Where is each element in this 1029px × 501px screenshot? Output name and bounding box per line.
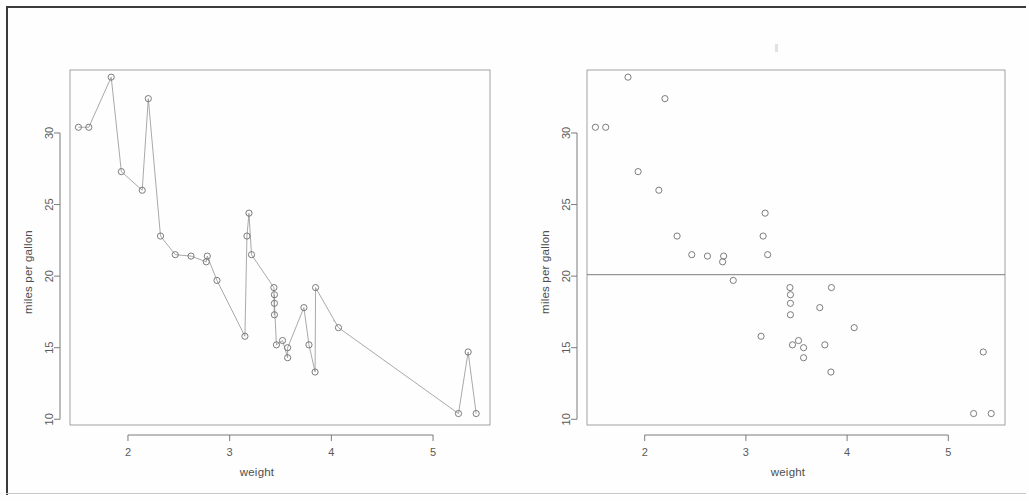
y-axis-tick-label: 15 xyxy=(43,342,55,354)
data-point xyxy=(603,124,609,130)
data-point xyxy=(828,369,834,375)
y-axis-tick-label: 10 xyxy=(43,413,55,425)
data-point xyxy=(730,277,736,283)
data-point xyxy=(971,410,977,416)
x-axis-tick-label: 3 xyxy=(227,446,233,458)
plot-box xyxy=(70,70,490,425)
data-point xyxy=(721,253,727,259)
scatter-plot-with-mean-line: 23451015202530 xyxy=(515,0,1029,470)
data-point xyxy=(720,259,726,265)
data-point xyxy=(625,74,631,80)
data-point xyxy=(689,252,695,258)
y-axis-tick-label: 10 xyxy=(560,413,572,425)
y-axis-tick-label: 30 xyxy=(43,127,55,139)
x-axis-tick-label: 5 xyxy=(430,446,436,458)
data-point xyxy=(592,124,598,130)
y-axis-title-left: miles per gallon xyxy=(22,230,34,314)
data-point xyxy=(800,355,806,361)
y-axis-title-right: miles per gallon xyxy=(539,230,551,314)
x-axis-title-right: weight xyxy=(771,466,805,478)
data-point xyxy=(704,253,710,259)
data-point xyxy=(787,312,793,318)
x-axis-title-left: weight xyxy=(240,466,274,478)
data-point xyxy=(635,169,641,175)
data-point xyxy=(851,325,857,331)
data-point xyxy=(762,210,768,216)
data-point xyxy=(988,410,994,416)
y-axis-tick-label: 25 xyxy=(560,198,572,210)
data-point xyxy=(787,284,793,290)
data-point xyxy=(795,337,801,343)
data-point xyxy=(980,349,986,355)
connected-scatter-plot: 23451015202530 xyxy=(0,0,515,470)
y-axis-tick-label: 20 xyxy=(43,270,55,282)
x-axis-tick-label: 4 xyxy=(328,446,334,458)
data-point xyxy=(765,252,771,258)
y-axis-tick-label: 20 xyxy=(560,270,572,282)
data-point xyxy=(760,233,766,239)
x-axis-tick-label: 3 xyxy=(743,446,749,458)
y-axis-tick-label: 30 xyxy=(560,127,572,139)
data-point xyxy=(662,96,668,102)
x-axis-tick-label: 5 xyxy=(945,446,951,458)
data-point xyxy=(674,233,680,239)
data-point xyxy=(787,300,793,306)
data-point xyxy=(822,342,828,348)
y-axis-tick-label: 15 xyxy=(560,342,572,354)
plot-box xyxy=(587,70,1005,425)
x-axis-tick-label: 4 xyxy=(844,446,850,458)
data-point xyxy=(789,342,795,348)
data-point xyxy=(817,305,823,311)
y-axis-tick-label: 25 xyxy=(43,198,55,210)
data-point xyxy=(787,292,793,298)
data-point xyxy=(800,345,806,351)
chart-panel-left: 23451015202530 weight miles per gallon xyxy=(0,0,515,501)
chart-panel-right: 23451015202530 weight miles per gallon xyxy=(515,0,1029,501)
x-axis-tick-label: 2 xyxy=(125,446,131,458)
scanned-page: 23451015202530 weight miles per gallon 2… xyxy=(0,0,1029,501)
data-point xyxy=(758,333,764,339)
x-axis-tick-label: 2 xyxy=(642,446,648,458)
data-line xyxy=(78,77,476,413)
data-point xyxy=(828,284,834,290)
data-point xyxy=(656,187,662,193)
